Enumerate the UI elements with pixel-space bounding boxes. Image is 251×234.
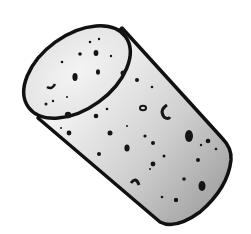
cork-icon	[0, 0, 251, 234]
cork-illustration	[0, 0, 251, 234]
